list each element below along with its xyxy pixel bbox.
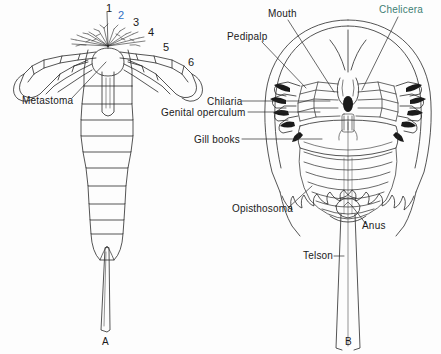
label-anus: Anus (362, 221, 386, 231)
a-median-plate (102, 72, 114, 116)
number-appendage-5: 5 (163, 42, 169, 53)
b-right-gnathobases (356, 82, 398, 121)
b-mouth-opening (343, 96, 353, 112)
number-appendage-4: 4 (148, 27, 154, 38)
number-appendage-1: 1 (106, 3, 112, 14)
a-leader-metastoma (72, 62, 106, 98)
number-appendage-2: 2 (118, 10, 124, 21)
figure-lineart (0, 0, 441, 354)
a-telson (101, 248, 110, 332)
label-chilaria: Chilaria (207, 97, 243, 107)
a-opisthosoma (81, 86, 133, 260)
figure-canvas: 1 2 3 4 5 6 Metastoma Mouth Chelicera Pe… (0, 0, 441, 354)
caption-b: B (345, 337, 352, 347)
label-mouth: Mouth (268, 9, 297, 19)
caption-a: A (102, 337, 109, 347)
b-left-gnathobases (298, 82, 340, 121)
label-genital-operculum: Genital operculum (161, 108, 246, 118)
panel-a-eurypterid (14, 12, 203, 332)
label-gill-books: Gill books (194, 135, 240, 145)
label-chelicera: Chelicera (379, 5, 423, 15)
label-opisthosoma: Opisthosoma (232, 204, 293, 214)
label-metastoma: Metastoma (22, 96, 73, 106)
panel-b-horseshoe-crab (265, 20, 431, 350)
leader-mouth (288, 20, 334, 92)
number-appendage-3: 3 (133, 17, 139, 28)
label-pedipalp: Pedipalp (227, 32, 268, 42)
label-telson: Telson (303, 251, 333, 261)
number-appendage-6: 6 (188, 57, 194, 68)
leader-chelicera (362, 17, 398, 90)
